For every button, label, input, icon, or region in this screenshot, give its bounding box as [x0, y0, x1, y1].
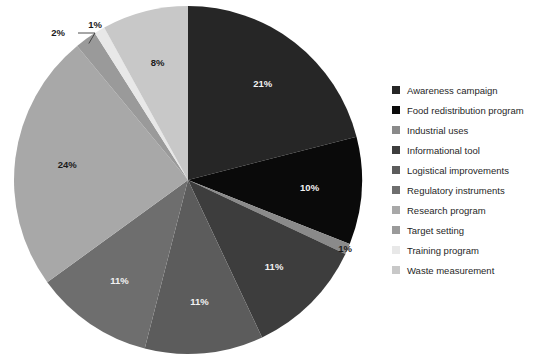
legend-item[interactable]: Training program	[392, 240, 552, 260]
legend-item[interactable]: Food redistribution program	[392, 100, 552, 120]
legend-item-label: Food redistribution program	[407, 105, 524, 116]
pie-slice-group	[14, 6, 362, 354]
pie-slice-percent-label: 24%	[58, 159, 78, 170]
legend-item-label: Research program	[407, 205, 486, 216]
legend-item[interactable]: Industrial uses	[392, 120, 552, 140]
pie-chart-figure: 21%10%1%11%11%11%24%2%1%8% Awareness cam…	[0, 0, 552, 357]
pie-slice-percent-label: 8%	[151, 57, 165, 68]
chart-legend: Awareness campaignFood redistribution pr…	[392, 80, 552, 280]
pie-slice-percent-label: 10%	[300, 182, 320, 193]
legend-color-swatch	[392, 226, 400, 234]
legend-color-swatch	[392, 166, 400, 174]
pie-slice-percent-label: 2%	[51, 27, 65, 38]
legend-item-label: Industrial uses	[407, 125, 468, 136]
legend-item[interactable]: Awareness campaign	[392, 80, 552, 100]
legend-color-swatch	[392, 186, 400, 194]
legend-item[interactable]: Waste measurement	[392, 260, 552, 280]
legend-color-swatch	[392, 246, 400, 254]
legend-color-swatch	[392, 86, 400, 94]
legend-color-swatch	[392, 126, 400, 134]
pie-slice-percent-label: 1%	[338, 243, 352, 254]
legend-item-label: Target setting	[407, 225, 464, 236]
legend-item[interactable]: Research program	[392, 200, 552, 220]
legend-item[interactable]: Regulatory instruments	[392, 180, 552, 200]
pie-slice-percent-label: 11%	[190, 296, 209, 307]
pie-slice-percent-label: 1%	[88, 19, 102, 30]
pie-chart-plot-area: 21%10%1%11%11%11%24%2%1%8%	[0, 0, 380, 357]
pie-slice-percent-label: 11%	[110, 275, 129, 286]
legend-item-label: Training program	[407, 245, 479, 256]
pie-slice-percent-label: 21%	[253, 78, 273, 89]
legend-color-swatch	[392, 106, 400, 114]
legend-item-label: Logistical improvements	[407, 165, 509, 176]
pie-slice-percent-label: 11%	[265, 261, 284, 272]
legend-item-label: Awareness campaign	[407, 85, 498, 96]
legend-item[interactable]: Logistical improvements	[392, 160, 552, 180]
legend-color-swatch	[392, 206, 400, 214]
legend-item[interactable]: Informational tool	[392, 140, 552, 160]
legend-item-label: Informational tool	[407, 145, 480, 156]
legend-item-label: Regulatory instruments	[407, 185, 505, 196]
legend-color-swatch	[392, 146, 400, 154]
legend-item-label: Waste measurement	[407, 265, 494, 276]
pie-svg: 21%10%1%11%11%11%24%2%1%8%	[0, 0, 380, 357]
legend-item[interactable]: Target setting	[392, 220, 552, 240]
legend-color-swatch	[392, 266, 400, 274]
